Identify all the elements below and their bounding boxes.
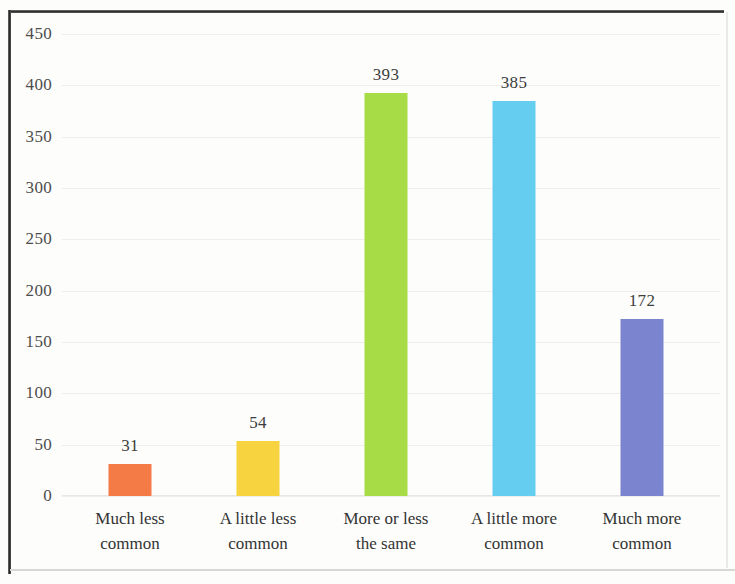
y-axis-tick-label: 300 xyxy=(6,178,52,198)
bar-group[interactable]: 393 xyxy=(322,34,450,496)
bar-value-label: 172 xyxy=(629,291,655,311)
bar-periwinkle[interactable] xyxy=(621,319,664,496)
y-axis-tick-label: 150 xyxy=(6,332,52,352)
y-axis-tick-label: 100 xyxy=(6,383,52,403)
x-axis-category-label: Much morecommon xyxy=(578,506,706,556)
bar-orange[interactable] xyxy=(109,464,152,496)
x-axis-category-label-line: common xyxy=(578,531,706,556)
x-axis-category-label-line: A little less xyxy=(194,506,322,531)
x-axis-labels: Much lesscommonA little lesscommonMore o… xyxy=(62,506,720,568)
y-axis-tick-label: 350 xyxy=(6,127,52,147)
bar-yellow[interactable] xyxy=(237,441,280,496)
bar-value-label: 393 xyxy=(373,65,399,85)
y-axis-tick-label: 450 xyxy=(6,24,52,44)
bar-value-label: 54 xyxy=(249,413,267,433)
y-axis-tick-label: 50 xyxy=(6,435,52,455)
x-axis-category-label: Much lesscommon xyxy=(66,506,194,556)
x-axis-category-label-line: common xyxy=(66,531,194,556)
bar-group[interactable]: 172 xyxy=(578,34,706,496)
page-frame-right-border xyxy=(726,12,728,568)
x-axis-category-label-line: More or less xyxy=(322,506,450,531)
x-axis-category-label-line: the same xyxy=(322,531,450,556)
bar-group[interactable]: 54 xyxy=(194,34,322,496)
x-axis-category-label-line: common xyxy=(194,531,322,556)
page-frame-top-border xyxy=(8,10,724,13)
bar-green[interactable] xyxy=(365,93,408,496)
bar-series: 3154393385172 xyxy=(62,34,720,496)
bar-light-blue[interactable] xyxy=(493,101,536,496)
x-axis-category-label-line: Much more xyxy=(578,506,706,531)
chart-page: 450400350300250200150100500 315439338517… xyxy=(0,0,735,584)
x-axis-category-label: More or lessthe same xyxy=(322,506,450,556)
y-axis-tick-label: 0 xyxy=(6,486,52,506)
x-axis-category-label-line: Much less xyxy=(66,506,194,531)
x-axis-category-label-line: A little more xyxy=(450,506,578,531)
y-axis-tick-label: 250 xyxy=(6,229,52,249)
bar-value-label: 31 xyxy=(121,436,139,456)
bar-group[interactable]: 385 xyxy=(450,34,578,496)
x-axis-category-label: A little lesscommon xyxy=(194,506,322,556)
y-axis-tick-label: 200 xyxy=(6,281,52,301)
y-axis-tick-label: 400 xyxy=(6,75,52,95)
page-frame-bottom-border xyxy=(10,569,735,571)
bar-group[interactable]: 31 xyxy=(66,34,194,496)
bar-value-label: 385 xyxy=(501,73,527,93)
x-axis-category-label: A little morecommon xyxy=(450,506,578,556)
y-axis: 450400350300250200150100500 xyxy=(0,34,52,496)
gridline xyxy=(62,496,720,497)
x-axis-category-label-line: common xyxy=(450,531,578,556)
